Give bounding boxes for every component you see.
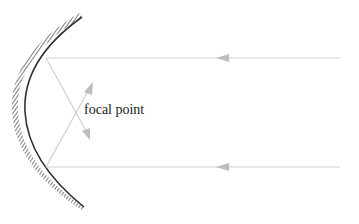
arrowhead-icon — [216, 163, 229, 171]
reflected-ray-bottom — [46, 82, 93, 167]
incoming-ray-top — [46, 54, 340, 62]
incoming-ray-bottom — [46, 163, 340, 171]
arrowhead-icon — [216, 54, 229, 62]
focal-point-label: focal point — [84, 102, 144, 118]
arrowhead-icon — [82, 128, 90, 140]
mirror-diagram — [0, 0, 359, 224]
arrowhead-icon — [84, 82, 93, 95]
concave-mirror — [12, 13, 84, 210]
